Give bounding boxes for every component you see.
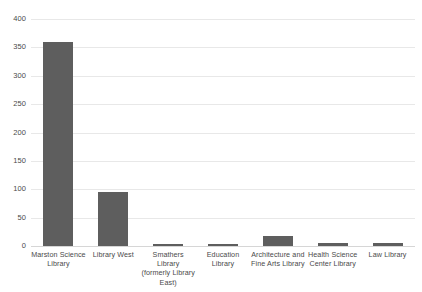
y-tick-label: 200 [0, 129, 26, 137]
x-category-label: Architecture andFine Arts Library [250, 250, 305, 268]
x-category-label: Health ScienceCenter Library [305, 250, 360, 268]
x-category-label-line: Smathers Library [141, 250, 196, 268]
bar [98, 192, 128, 246]
y-tick-label: 400 [0, 15, 26, 23]
y-tick-label: 350 [0, 43, 26, 51]
x-category-label-line: Architecture and [250, 250, 305, 259]
bar [43, 42, 73, 246]
bar [208, 244, 238, 246]
x-category-label-line: (formerly Library [141, 268, 196, 277]
y-tick-label: 100 [0, 185, 26, 193]
x-category-label-line: East) [141, 278, 196, 287]
y-tick-label: 0 [0, 242, 26, 250]
x-category-label: Education Library [196, 250, 251, 268]
bar-chart: 050100150200250300350400 Marston Science… [0, 0, 422, 292]
y-tick-label: 250 [0, 100, 26, 108]
plot-area [31, 19, 415, 246]
bar [373, 243, 403, 246]
gridline-50 [31, 218, 415, 219]
gridline-200 [31, 133, 415, 134]
bar [263, 236, 293, 246]
gridline-400 [31, 19, 415, 20]
x-category-label-line: Fine Arts Library [250, 259, 305, 268]
gridline-0 [31, 246, 415, 247]
gridline-300 [31, 76, 415, 77]
bar [153, 244, 183, 246]
x-category-label-line: Health Science [305, 250, 360, 259]
x-category-label-line: Education Library [196, 250, 251, 268]
y-tick-label: 50 [0, 214, 26, 222]
x-category-label: Smathers Library(formerly LibraryEast) [141, 250, 196, 287]
y-tick-label: 150 [0, 157, 26, 165]
x-category-label-line: Law Library [360, 250, 415, 259]
x-category-label: Marston ScienceLibrary [31, 250, 86, 268]
gridline-350 [31, 47, 415, 48]
x-axis-category-labels: Marston ScienceLibraryLibrary WestSmathe… [31, 250, 415, 292]
x-category-label-line: Library West [86, 250, 141, 259]
x-category-label-line: Library [31, 259, 86, 268]
x-category-label: Law Library [360, 250, 415, 259]
x-category-label-line: Marston Science [31, 250, 86, 259]
gridline-100 [31, 189, 415, 190]
x-category-label: Library West [86, 250, 141, 259]
x-category-label-line: Center Library [305, 259, 360, 268]
gridline-250 [31, 104, 415, 105]
bar [318, 243, 348, 246]
y-tick-label: 300 [0, 72, 26, 80]
gridline-150 [31, 161, 415, 162]
